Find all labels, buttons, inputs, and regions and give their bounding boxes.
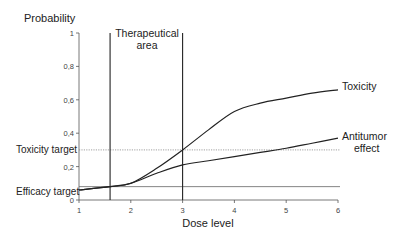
y-axis-label: Probability	[24, 12, 76, 24]
y-tick-label: 0,8	[64, 62, 74, 71]
y-axis: 00,20,40,60,81	[64, 29, 79, 205]
x-tick-label: 5	[284, 206, 288, 215]
y-tick-label: 0,2	[64, 163, 74, 172]
x-tick-label: 1	[77, 206, 81, 215]
toxicity-series-label: Toxicity	[342, 80, 377, 92]
series-lines	[79, 90, 338, 190]
dose-response-chart: 00,20,40,60,81 123456 Probability Dose l…	[0, 0, 402, 242]
x-tick-label: 6	[336, 206, 340, 215]
y-tick-label: 0	[70, 196, 74, 205]
antitumor-series-label-2: effect	[354, 142, 380, 154]
therapeutic-area-label-1: Therapeutical	[115, 27, 179, 39]
antitumor-effect-curve	[79, 138, 338, 190]
y-tick-label: 1	[70, 29, 74, 38]
x-axis-label: Dose level	[182, 217, 233, 229]
x-tick-label: 4	[232, 206, 236, 215]
y-tick-label: 0,4	[64, 129, 74, 138]
therapeutic-area-label-2: area	[136, 39, 157, 51]
toxicity-curve	[79, 90, 338, 190]
x-tick-label: 3	[181, 206, 185, 215]
x-axis: 123456	[77, 200, 340, 215]
reference-lines	[79, 150, 340, 187]
x-tick-label: 2	[129, 206, 133, 215]
efficacy-target-label: Efficacy target	[16, 186, 79, 197]
antitumor-series-label-1: Antitumor	[342, 130, 387, 142]
y-tick-label: 0,6	[64, 96, 74, 105]
toxicity-target-label: Toxicity target	[16, 144, 77, 155]
